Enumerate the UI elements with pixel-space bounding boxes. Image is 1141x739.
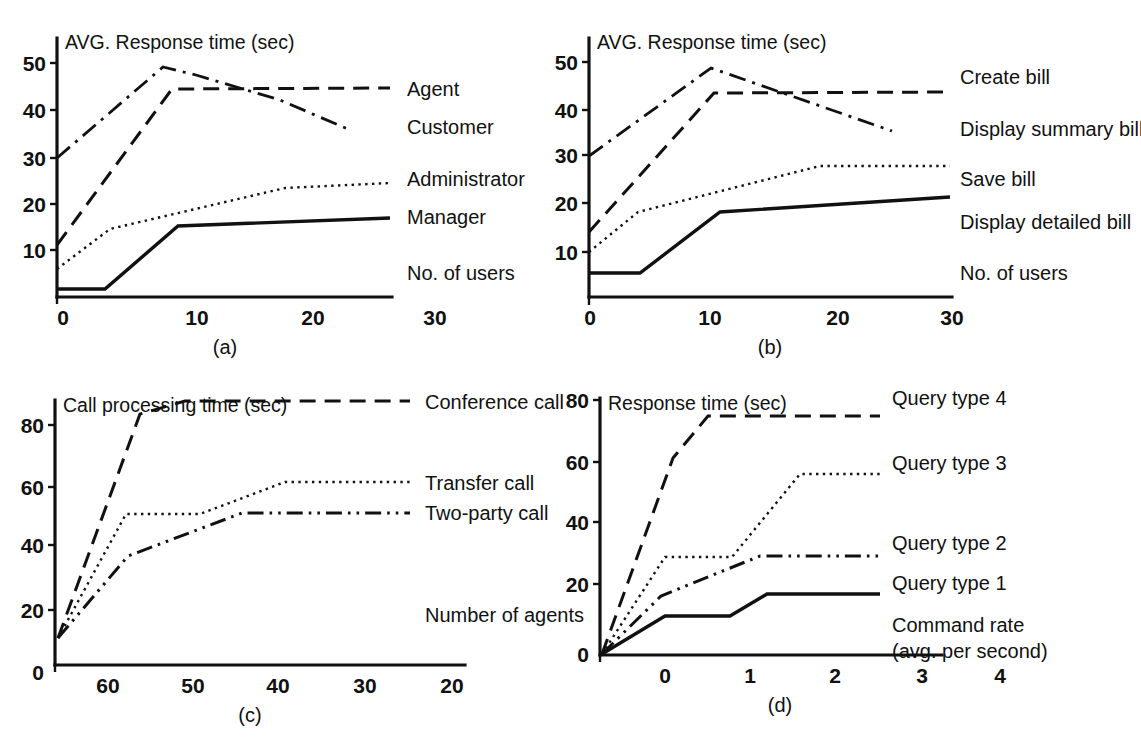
panel-d-series-query-type-4 xyxy=(602,416,880,654)
panel-a-label-agent: Agent xyxy=(407,78,460,100)
panel-d-ytick-1: 60 xyxy=(566,451,589,474)
panel-d-label-query-type-3: Query type 3 xyxy=(892,452,1007,474)
panel-d-xtick-3: 3 xyxy=(916,664,928,687)
panel-d-axis-title: Response time (sec) xyxy=(608,392,787,414)
panel-a-xtick-0: 0 xyxy=(57,306,69,329)
panel-d-ytick-0: 80 xyxy=(566,389,589,412)
panel-b-xtick-2: 20 xyxy=(826,306,849,329)
panel-a-label-administrator: Administrator xyxy=(407,168,525,190)
panel-c-label-transfer-call: Transfer call xyxy=(425,472,534,494)
panel-a-ytick-2: 30 xyxy=(23,147,46,170)
panel-c-series-transfer-call xyxy=(58,482,410,638)
panel-c: 80 60 40 20 0 Call processing time (sec)… xyxy=(0,370,560,739)
panel-c-axis-title: Call processing time (sec) xyxy=(63,394,287,416)
panel-c-caption: (c) xyxy=(238,704,261,726)
panel-d-xtick-2: 2 xyxy=(829,664,841,687)
panel-a-xtick-3: 30 xyxy=(423,306,446,329)
panel-d-ytick-4: 0 xyxy=(577,643,589,666)
panel-d-caption: (d) xyxy=(768,694,792,716)
panel-a-series-administrator xyxy=(57,183,390,269)
panel-b-ytick-0: 50 xyxy=(555,51,578,74)
panel-a-series-customer xyxy=(57,67,350,158)
panel-b: 50 40 30 20 10 AVG. Response time (sec) … xyxy=(530,0,1141,360)
panel-a-caption: (a) xyxy=(213,336,237,358)
panel-b-xtick-1: 10 xyxy=(698,306,721,329)
panel-b-ytick-2: 30 xyxy=(555,144,578,167)
panel-a-xtick-2: 20 xyxy=(301,306,324,329)
panel-b-series-display-detailed-bill xyxy=(589,197,950,273)
panel-a-ytick-1: 40 xyxy=(23,99,46,122)
panel-c-ytick-2: 40 xyxy=(21,534,44,557)
panel-a-ytick-0: 50 xyxy=(23,52,46,75)
panel-a-ytick-4: 10 xyxy=(23,239,46,262)
panel-d-ytick-2: 40 xyxy=(566,511,589,534)
panel-d-label-query-type-4: Query type 4 xyxy=(892,387,1007,409)
panel-a-ytick-3: 20 xyxy=(23,193,46,216)
panel-a-label-manager: Manager xyxy=(407,206,486,228)
panel-b-label-display-detailed-bill: Display detailed bill xyxy=(960,211,1131,233)
panel-c-ytick-3: 20 xyxy=(21,599,44,622)
panel-a-axis-title: AVG. Response time (sec) xyxy=(65,31,294,53)
panel-c-xtick-1: 50 xyxy=(181,674,204,697)
panel-d-label-x-axis-line1: Command rate xyxy=(892,614,1024,636)
panel-a-label-x-axis: No. of users xyxy=(407,262,515,284)
panel-b-label-create-bill: Create bill xyxy=(960,66,1050,88)
panel-d-label-x-axis-line2: (avg. per second) xyxy=(892,640,1048,662)
panel-c-xtick-3: 30 xyxy=(353,674,376,697)
four-panel-line-chart-figure: 50 40 30 20 10 AVG. Response time (sec) … xyxy=(0,0,1141,739)
panel-a-xtick-1: 10 xyxy=(185,306,208,329)
panel-d-label-query-type-1: Query type 1 xyxy=(892,572,1007,594)
panel-d-xtick-0: 0 xyxy=(659,664,671,687)
panel-b-ytick-1: 40 xyxy=(555,99,578,122)
panel-a-label-customer: Customer xyxy=(407,116,494,138)
panel-c-xtick-4: 20 xyxy=(440,674,463,697)
panel-b-caption: (b) xyxy=(758,336,782,358)
panel-b-label-x-axis: No. of users xyxy=(960,262,1068,284)
panel-d-series-query-type-1 xyxy=(602,594,880,654)
panel-c-ytick-4: 0 xyxy=(32,661,44,684)
panel-d: 80 60 40 20 0 Response time (sec) 0 1 2 … xyxy=(530,370,1141,739)
panel-b-ytick-4: 10 xyxy=(555,241,578,264)
panel-b-axis-title: AVG. Response time (sec) xyxy=(597,31,826,53)
panel-d-ytick-3: 20 xyxy=(566,573,589,596)
panel-c-ytick-1: 60 xyxy=(21,476,44,499)
panel-a-series-manager xyxy=(57,218,390,289)
panel-d-xtick-4: 4 xyxy=(994,664,1006,687)
panel-d-label-query-type-2: Query type 2 xyxy=(892,532,1007,554)
panel-d-series-query-type-2 xyxy=(602,556,880,654)
panel-b-series-display-summary-bill xyxy=(589,68,892,156)
panel-b-ytick-3: 20 xyxy=(555,192,578,215)
panel-c-series-two-party-call xyxy=(58,513,410,638)
panel-b-xtick-0: 0 xyxy=(584,306,596,329)
panel-b-label-save-bill: Save bill xyxy=(960,168,1036,190)
panel-c-ytick-0: 80 xyxy=(21,414,44,437)
panel-d-xtick-1: 1 xyxy=(744,664,756,687)
panel-a: 50 40 30 20 10 AVG. Response time (sec) … xyxy=(0,0,560,360)
panel-c-xtick-0: 60 xyxy=(96,674,119,697)
panel-c-xtick-2: 40 xyxy=(266,674,289,697)
panel-b-xtick-3: 30 xyxy=(940,306,963,329)
panel-c-series-conference-call xyxy=(58,401,410,638)
panel-b-label-display-summary-bill: Display summary bill xyxy=(960,118,1141,140)
